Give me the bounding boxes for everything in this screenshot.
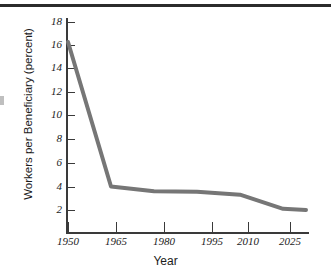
y-axis-title: Workers per Beneficiary (percent) <box>22 14 34 214</box>
plot-area: 18 16 14 12 10 8 6 4 2 1950 1965 1980 19… <box>0 0 331 279</box>
chart-figure: 18 16 14 12 10 8 6 4 2 1950 1965 1980 19… <box>0 0 331 279</box>
data-series-line <box>0 0 331 279</box>
x-axis-title: Year <box>0 254 331 268</box>
